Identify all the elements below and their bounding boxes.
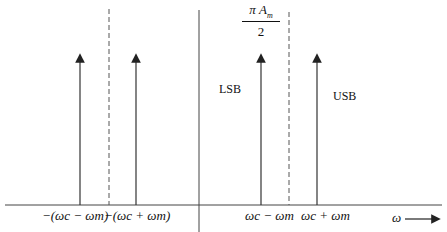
peak-denominator: 2 <box>242 22 280 40</box>
peak-numerator: π A <box>249 2 267 17</box>
tick-lsb: ωc − ωm <box>245 208 294 224</box>
lsb-label: LSB <box>219 82 241 97</box>
omega-axis-label: ω <box>392 210 401 226</box>
tick-usb: ωc + ωm <box>301 208 350 224</box>
spectrum-diagram <box>0 0 447 232</box>
peak-numerator-sub: m <box>267 11 273 20</box>
tick-neg-lsb: −(ωc − ωm) <box>42 208 108 224</box>
peak-amplitude-label: π Am 2 <box>242 2 280 40</box>
tick-neg-usb: −(ωc + ωm) <box>104 208 170 224</box>
usb-label: USB <box>333 89 356 104</box>
